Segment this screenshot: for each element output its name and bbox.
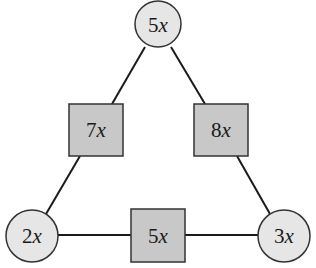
square-node-left: 7x bbox=[69, 104, 123, 156]
svg-text:5x: 5x bbox=[148, 224, 169, 248]
svg-text:5x: 5x bbox=[148, 13, 169, 37]
svg-text:8x: 8x bbox=[211, 118, 232, 142]
svg-text:7x: 7x bbox=[86, 118, 107, 142]
edge-top-left bbox=[112, 47, 145, 104]
edge-right-bottomright bbox=[237, 156, 270, 214]
circle-node-top: 5x bbox=[135, 1, 181, 47]
edge-top-right bbox=[171, 47, 205, 104]
svg-text:3x: 3x bbox=[274, 224, 295, 248]
square-node-right: 8x bbox=[194, 104, 248, 156]
circle-node-bottom-left: 2x bbox=[6, 210, 58, 262]
triangle-diagram: 7x 8x 5x 5x 2x 3x bbox=[0, 0, 316, 268]
svg-text:2x: 2x bbox=[22, 224, 43, 248]
square-node-bottom: 5x bbox=[131, 209, 185, 262]
circle-node-bottom-right: 3x bbox=[258, 210, 310, 262]
edge-left-bottomleft bbox=[46, 156, 80, 214]
